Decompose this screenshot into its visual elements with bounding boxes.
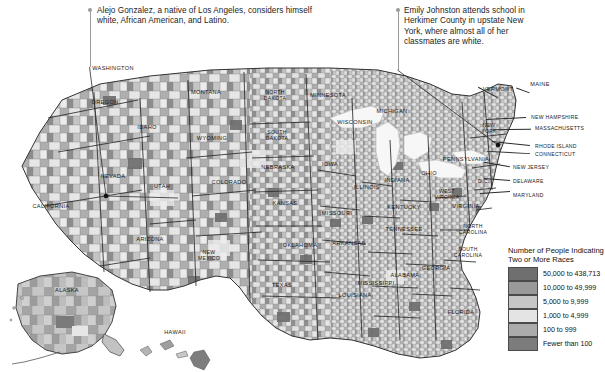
state-label-arizona: ARIZONA bbox=[136, 236, 163, 242]
state-label-missouri: MISSOURI bbox=[322, 210, 352, 216]
state-label-maine: MAINE bbox=[530, 81, 549, 87]
state-label-south-carolina: SOUTH CAROLINA bbox=[454, 246, 482, 259]
annotation-text-left: Alejo Gonzalez, a native of Los Angeles,… bbox=[97, 6, 312, 27]
state-label-utah: UTAH bbox=[154, 183, 170, 189]
state-label-alabama: ALABAMA bbox=[391, 272, 420, 278]
legend-label-1: 10,000 to 49,999 bbox=[543, 284, 596, 292]
legend-swatch-2 bbox=[508, 295, 538, 309]
state-label-nevada: NEVADA bbox=[101, 173, 126, 179]
legend-row: 1,000 to 4,999 bbox=[508, 309, 604, 323]
state-label-new-jersey: NEW JERSEY bbox=[513, 164, 549, 170]
state-label-louisiana: LOUISIANA bbox=[339, 292, 372, 298]
legend-row: 5,000 to 9,999 bbox=[508, 295, 604, 309]
state-label-massachusetts: MASSACHUSETTS bbox=[535, 125, 584, 131]
legend-row: 50,000 to 438,713 bbox=[508, 267, 604, 281]
state-label-oklahoma: OKLAHOMA bbox=[283, 242, 318, 248]
legend-label-5: Fewer than 100 bbox=[543, 340, 592, 348]
state-label-idaho: IDAHO bbox=[137, 124, 156, 130]
state-label-mississippi: MISSISSIPPI bbox=[357, 280, 394, 286]
state-label-rhode-island: RHODE ISLAND bbox=[535, 143, 577, 149]
state-label-indiana: INDIANA bbox=[384, 177, 409, 183]
state-label-vermont: VERMONT bbox=[483, 86, 513, 92]
legend-swatch-1 bbox=[508, 281, 538, 295]
state-label-alaska: ALASKA bbox=[55, 287, 79, 293]
legend-label-4: 100 to 999 bbox=[543, 326, 577, 334]
map-figure: Alejo Gonzalez, a native of Los Angeles,… bbox=[0, 0, 605, 372]
state-label-minnesota: MINNESOTA bbox=[310, 92, 346, 98]
map-graphic bbox=[0, 40, 520, 372]
state-label-wyoming: WYOMING bbox=[197, 135, 227, 141]
state-label-virginia: VIRGINIA bbox=[452, 203, 479, 209]
state-label-iowa: IOWA bbox=[322, 161, 338, 167]
legend-swatch-0 bbox=[508, 267, 538, 281]
legend-title: Number of People Indicating Two or More … bbox=[508, 246, 604, 264]
state-label-connecticut: CONNECTICUT bbox=[535, 151, 575, 157]
state-label-ohio: OHIO bbox=[421, 170, 437, 176]
state-label-washington: WASHINGTON bbox=[92, 65, 134, 71]
state-label-nebraska: NEBRASKA bbox=[261, 164, 294, 170]
legend-label-3: 1,000 to 4,999 bbox=[543, 312, 588, 320]
state-label-north-dakota: NORTH DAKOTA bbox=[264, 89, 286, 102]
legend-swatch-4 bbox=[508, 323, 538, 337]
state-label-florida: FLORIDA bbox=[448, 309, 475, 315]
legend-row: 10,000 to 49,999 bbox=[508, 281, 604, 295]
state-label-new-hampshire: NEW HAMPSHIRE bbox=[531, 114, 578, 120]
state-label-hawaii: HAWAII bbox=[164, 329, 186, 335]
legend-label-0: 50,000 to 438,713 bbox=[543, 270, 600, 278]
state-label-west-virginia: WEST VIRGINIA bbox=[435, 188, 460, 201]
us-county-choropleth bbox=[0, 40, 520, 372]
state-label-texas: TEXAS bbox=[272, 282, 292, 288]
state-label-arkansas: ARKANSAS bbox=[332, 240, 365, 246]
state-label-oregon: OREGON bbox=[92, 99, 119, 105]
legend-swatch-3 bbox=[508, 309, 538, 323]
map-legend: Number of People Indicating Two or More … bbox=[508, 246, 604, 351]
alaska-inset bbox=[10, 268, 126, 364]
state-label-california: CALIFORNIA bbox=[32, 203, 69, 209]
state-label-new-mexico: NEW MEXICO bbox=[198, 249, 220, 262]
state-label-district-of-columbia: D.C. bbox=[478, 178, 489, 184]
state-label-colorado: COLORADO bbox=[212, 179, 247, 185]
state-label-north-carolina: NORTH CAROLINA bbox=[459, 223, 487, 236]
state-label-pennsylvania: PENNSYLVANIA bbox=[443, 156, 489, 162]
state-label-kansas: KANSAS bbox=[273, 200, 298, 206]
legend-label-2: 5,000 to 9,999 bbox=[543, 298, 588, 306]
state-label-montana: MONTANA bbox=[191, 89, 221, 95]
hawaii-inset bbox=[140, 340, 210, 370]
state-label-georgia: GEORGIA bbox=[422, 265, 451, 271]
state-label-tennessee: TENNESSEE bbox=[385, 226, 422, 232]
state-label-maryland: MARYLAND bbox=[513, 192, 544, 198]
state-label-kentucky: KENTUCKY bbox=[387, 204, 420, 210]
state-label-south-dakota: SOUTH DAKOTA bbox=[266, 129, 288, 142]
legend-row: 100 to 999 bbox=[508, 323, 604, 337]
state-label-new-york: NEW YORK bbox=[481, 122, 497, 135]
state-label-illinois: ILLINOIS bbox=[354, 184, 380, 190]
state-label-michigan: MICHIGAN bbox=[377, 108, 408, 114]
state-label-wisconsin: WISCONSIN bbox=[337, 119, 372, 125]
legend-row: Fewer than 100 bbox=[508, 337, 604, 351]
state-label-delaware: DELAWARE bbox=[513, 178, 544, 184]
legend-swatch-5 bbox=[508, 337, 538, 351]
legend-rows: 50,000 to 438,71310,000 to 49,9995,000 t… bbox=[508, 267, 604, 351]
